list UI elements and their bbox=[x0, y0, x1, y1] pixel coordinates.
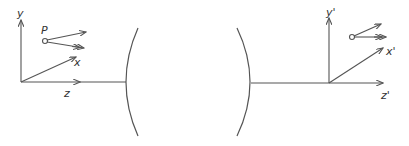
lens-diagram: y x z P y' x' z' bbox=[0, 0, 409, 146]
point-p-label: P bbox=[41, 24, 48, 37]
x-axis-label: x bbox=[73, 56, 81, 69]
image-coordinate-frame: y' x' z' bbox=[325, 6, 396, 102]
image-ray-arrow-upper bbox=[354, 24, 381, 36]
z-axis-label: z bbox=[63, 87, 70, 100]
lens-surface-right bbox=[237, 28, 250, 136]
z-prime-axis-label: z' bbox=[380, 89, 390, 102]
y-axis-label: y bbox=[16, 7, 24, 20]
x-prime-axis-label: x' bbox=[385, 45, 396, 58]
point-p-marker bbox=[43, 39, 48, 44]
lens-surface-left bbox=[126, 28, 138, 136]
ray-arrow-upper bbox=[47, 32, 86, 40]
y-prime-axis-label: y' bbox=[325, 6, 336, 19]
image-point-marker bbox=[350, 35, 355, 40]
x-axis bbox=[21, 57, 76, 82]
x-prime-axis bbox=[329, 48, 383, 83]
lens bbox=[126, 28, 250, 136]
object-coordinate-frame: y x z P bbox=[16, 7, 86, 100]
